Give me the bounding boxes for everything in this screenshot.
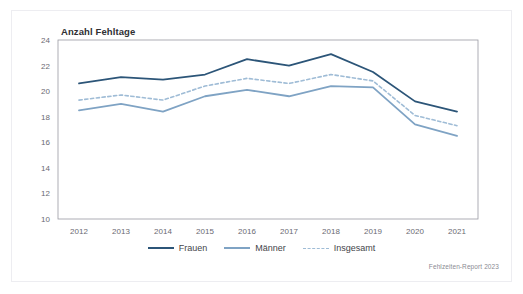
x-axis-tick-labels: 2012201320142015201620172018201920202021 bbox=[70, 227, 466, 236]
x-tick-label: 2020 bbox=[406, 227, 424, 236]
x-tick-label: 2019 bbox=[364, 227, 382, 236]
y-tick-label: 22 bbox=[41, 62, 50, 71]
source-note: Fehlzeiten-Report 2023 bbox=[429, 263, 499, 270]
x-tick-label: 2021 bbox=[448, 227, 466, 236]
x-tick-label: 2014 bbox=[154, 227, 172, 236]
y-tick-label: 16 bbox=[41, 138, 50, 147]
data-series-group bbox=[79, 54, 457, 136]
legend-label-insgesamt: Insgesamt bbox=[334, 243, 376, 253]
x-tick-label: 2017 bbox=[280, 227, 298, 236]
x-tick-label: 2013 bbox=[112, 227, 130, 236]
legend-item-insgesamt[interactable]: Insgesamt bbox=[303, 243, 376, 253]
legend-line-swatch-frauen bbox=[148, 247, 174, 249]
plot-axes bbox=[58, 40, 478, 219]
chart-legend: Frauen Männer Insgesamt bbox=[0, 243, 523, 253]
y-tick-label: 24 bbox=[41, 36, 50, 45]
legend-line-swatch-insgesamt bbox=[303, 248, 329, 249]
y-tick-label: 20 bbox=[41, 87, 50, 96]
chart-figure: Anzahl Fehltage 1012141618202224 2012201… bbox=[0, 0, 523, 294]
y-tick-label: 14 bbox=[41, 164, 50, 173]
x-tick-label: 2016 bbox=[238, 227, 256, 236]
legend-item-frauen[interactable]: Frauen bbox=[148, 243, 208, 253]
series-line-insgesamt bbox=[79, 75, 457, 126]
legend-line-swatch-maenner bbox=[224, 247, 250, 249]
plot-frame bbox=[58, 40, 478, 219]
y-tick-label: 12 bbox=[41, 189, 50, 198]
x-tick-label: 2015 bbox=[196, 227, 214, 236]
legend-item-maenner[interactable]: Männer bbox=[224, 243, 286, 253]
y-tick-label: 18 bbox=[41, 113, 50, 122]
series-line-männer bbox=[79, 86, 457, 136]
y-tick-label: 10 bbox=[41, 215, 50, 224]
y-axis-tick-labels: 1012141618202224 bbox=[41, 36, 50, 224]
x-tick-label: 2018 bbox=[322, 227, 340, 236]
legend-label-maenner: Männer bbox=[255, 243, 286, 253]
x-tick-label: 2012 bbox=[70, 227, 88, 236]
legend-label-frauen: Frauen bbox=[179, 243, 208, 253]
